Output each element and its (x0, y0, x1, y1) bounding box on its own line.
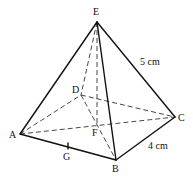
measurement-BC: 4 cm (148, 140, 168, 151)
label-A: A (9, 129, 17, 140)
edge-BC (116, 117, 175, 160)
pyramid-diagram: E A B C D F G 5 cm 4 cm (0, 0, 193, 180)
diagonal-DB (81, 95, 116, 160)
label-D: D (72, 84, 79, 95)
label-F: F (92, 127, 98, 138)
measurement-EC: 5 cm (140, 56, 160, 67)
label-E: E (93, 6, 99, 17)
label-B: B (112, 163, 119, 174)
label-G: G (63, 151, 70, 162)
label-C: C (178, 112, 185, 123)
edge-DC (81, 95, 175, 117)
edge-EA (20, 22, 97, 134)
